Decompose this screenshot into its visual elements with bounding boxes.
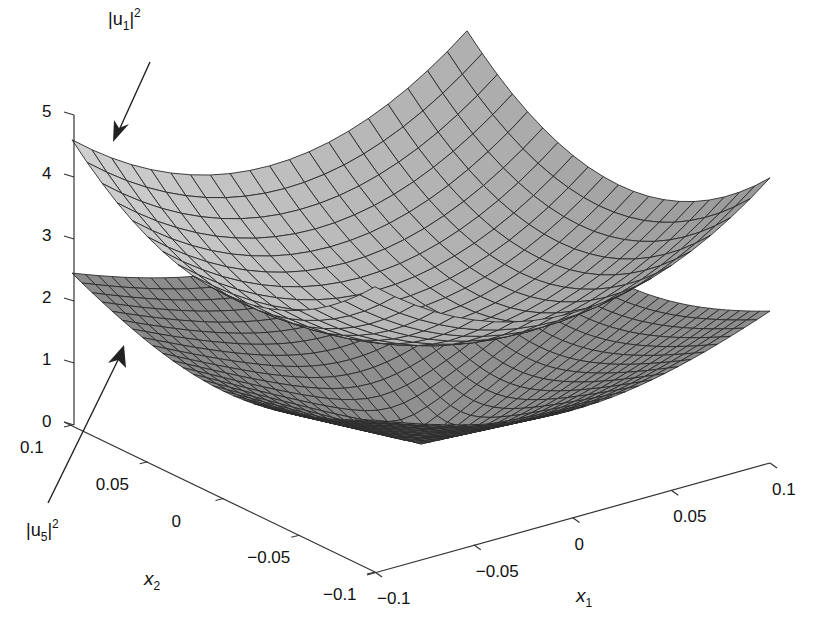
- z-tick-label: 1: [42, 350, 51, 369]
- z-tick-label: 3: [42, 226, 51, 245]
- x2-tick-label: 0: [172, 512, 181, 531]
- z-tick: [64, 174, 74, 177]
- annotation-u1-arrow-icon: [113, 62, 150, 142]
- surfaces-layer: [72, 31, 770, 444]
- z-tick-label: 2: [42, 288, 51, 307]
- x2-tick: [291, 535, 299, 537]
- surface-plot: 012345−0.1−0.0500.050.1−0.1−0.0500.050.1…: [0, 0, 835, 628]
- z-tick-label: 0: [42, 412, 51, 431]
- x2-tick: [64, 425, 72, 427]
- z-tick: [64, 298, 74, 301]
- z-tick: [64, 360, 74, 363]
- x2-tick-label: 0.1: [20, 438, 44, 457]
- x1-tick-label: 0.1: [772, 480, 796, 499]
- z-tick-label: 5: [42, 102, 51, 121]
- annotation-u5-label: |u5|2: [26, 517, 59, 544]
- x1-tick-label: 0: [575, 535, 584, 554]
- x1-tick: [573, 518, 580, 523]
- x1-axis-line: [367, 463, 770, 575]
- z-tick: [64, 112, 74, 115]
- x2-tick-label: −0.05: [247, 548, 290, 567]
- x2-tick-label: 0.05: [96, 475, 129, 494]
- x1-axis-title: x1: [575, 585, 593, 610]
- x2-tick: [216, 499, 224, 501]
- z-tick: [64, 236, 74, 239]
- x1-tick-label: 0.05: [673, 507, 706, 526]
- annotation-u1-label: |u1|2: [108, 6, 141, 33]
- x2-tick: [140, 462, 148, 464]
- z-tick-label: 4: [42, 164, 51, 183]
- x2-tick-label: −0.1: [323, 585, 357, 604]
- x2-axis-line: [64, 422, 375, 572]
- x1-tick: [375, 572, 382, 577]
- x1-tick-label: −0.05: [476, 562, 519, 581]
- x2-axis-title: x2: [143, 568, 161, 593]
- x1-tick: [671, 490, 678, 495]
- x1-tick: [770, 463, 777, 468]
- x1-tick-label: −0.1: [377, 589, 411, 608]
- x1-tick: [474, 545, 481, 550]
